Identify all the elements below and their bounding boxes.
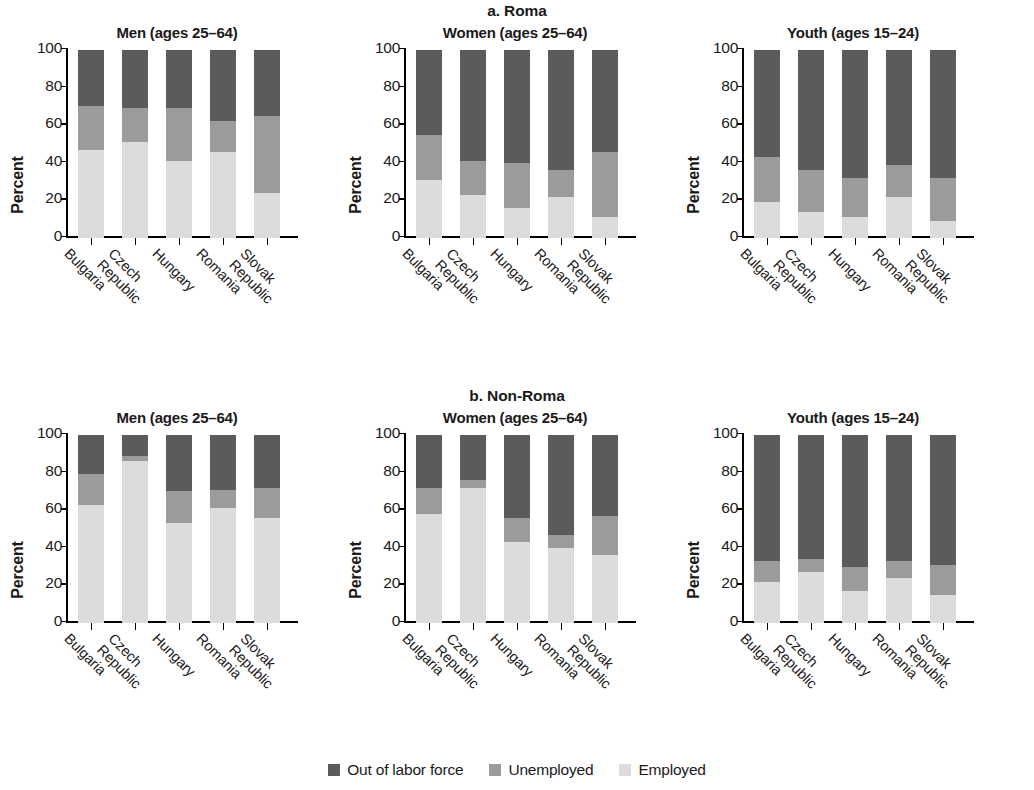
bar-hungary xyxy=(504,435,530,623)
bar-romania xyxy=(210,50,236,238)
segment-employed xyxy=(78,505,104,623)
bar-czech-republic xyxy=(460,435,486,623)
panel-row-roma: Men (ages 25–64)Percent020406080100Bulga… xyxy=(0,22,1034,367)
segment-out-of-labor-force xyxy=(592,50,618,152)
segment-employed xyxy=(886,197,912,238)
segment-out-of-labor-force xyxy=(798,50,824,170)
y-tick-mark xyxy=(737,48,742,49)
bar-czech-republic xyxy=(122,50,148,238)
x-tick-label: Hungary xyxy=(487,246,536,295)
y-tick-mark xyxy=(61,583,66,584)
segment-employed xyxy=(548,197,574,238)
section-roma: a. Roma Men (ages 25–64)Percent020406080… xyxy=(0,0,1034,375)
y-tick-mark xyxy=(737,471,742,472)
y-axis-ticks: 020406080100 xyxy=(692,433,738,623)
x-tick-mark xyxy=(561,238,562,245)
y-tick-mark xyxy=(61,123,66,124)
y-tick-mark xyxy=(61,198,66,199)
bar-hungary xyxy=(504,50,530,238)
segment-employed xyxy=(754,202,780,238)
x-tick-mark xyxy=(561,623,562,630)
x-tick-mark xyxy=(91,238,92,245)
bar-hungary xyxy=(842,50,868,238)
y-tick-mark xyxy=(399,583,404,584)
segment-employed xyxy=(842,217,868,238)
y-axis-ticks: 020406080100 xyxy=(354,433,400,623)
plot-area: Percent020406080100BulgariaCzechRepublic… xyxy=(676,48,1016,348)
x-tick-mark xyxy=(135,238,136,245)
y-axis-line xyxy=(742,48,744,238)
legend-swatch xyxy=(489,764,501,776)
x-tick-label: CzechRepublic xyxy=(770,631,831,692)
x-tick-mark xyxy=(943,238,944,245)
y-axis-ticks: 020406080100 xyxy=(16,433,62,623)
x-tick-mark xyxy=(899,623,900,630)
segment-out-of-labor-force xyxy=(930,50,956,178)
y-tick-label: 40 xyxy=(692,537,738,555)
segment-employed xyxy=(504,542,530,623)
x-tick-label: Hungary xyxy=(825,631,874,680)
y-tick-mark xyxy=(399,86,404,87)
segment-unemployed xyxy=(122,108,148,142)
panel-men: Men (ages 25–64)Percent020406080100Bulga… xyxy=(0,22,340,367)
segment-out-of-labor-force xyxy=(798,435,824,559)
y-tick-label: 0 xyxy=(692,612,738,630)
axis xyxy=(742,48,972,238)
bar-bulgaria xyxy=(416,435,442,623)
bar-bulgaria xyxy=(754,435,780,623)
legend-label: Employed xyxy=(638,761,705,779)
y-tick-label: 20 xyxy=(16,189,62,207)
x-tick-label: Hungary xyxy=(825,246,874,295)
x-axis-labels: BulgariaCzechRepublicHungaryRomaniaSlova… xyxy=(66,631,306,731)
y-tick-label: 80 xyxy=(16,462,62,480)
segment-out-of-labor-force xyxy=(548,435,574,535)
y-tick-mark xyxy=(737,508,742,509)
x-tick-mark xyxy=(811,623,812,630)
segment-unemployed xyxy=(754,157,780,202)
segment-employed xyxy=(210,152,236,238)
segment-employed xyxy=(886,578,912,623)
y-tick-mark xyxy=(399,161,404,162)
x-tick-label: SlovakRepublic xyxy=(564,631,625,692)
bar-czech-republic xyxy=(460,50,486,238)
segment-out-of-labor-force xyxy=(842,435,868,567)
section-title-nonroma: b. Non-Roma xyxy=(0,385,1034,407)
x-tick-mark xyxy=(429,623,430,630)
x-tick-label: Hungary xyxy=(487,631,536,680)
y-tick-mark xyxy=(61,161,66,162)
segment-out-of-labor-force xyxy=(754,435,780,561)
axis xyxy=(66,48,296,238)
legend-item: Out of labor force xyxy=(328,761,463,779)
segment-unemployed xyxy=(930,178,956,221)
y-tick-mark xyxy=(61,236,66,237)
plot-area: Percent020406080100BulgariaCzechRepublic… xyxy=(338,433,678,733)
segment-employed xyxy=(460,195,486,238)
bar-hungary xyxy=(842,435,868,623)
y-axis-ticks: 020406080100 xyxy=(16,48,62,238)
y-tick-label: 0 xyxy=(16,227,62,245)
segment-out-of-labor-force xyxy=(548,50,574,170)
axis xyxy=(742,433,972,623)
y-tick-label: 60 xyxy=(354,114,400,132)
panel-women: Women (ages 25–64)Percent020406080100Bul… xyxy=(338,407,678,752)
x-tick-label: CzechRepublic xyxy=(432,246,493,307)
y-tick-label: 80 xyxy=(692,462,738,480)
y-axis-line xyxy=(404,433,406,623)
panel-women: Women (ages 25–64)Percent020406080100Bul… xyxy=(338,22,678,367)
segment-employed xyxy=(754,582,780,623)
segment-out-of-labor-force xyxy=(504,50,530,163)
y-tick-label: 60 xyxy=(16,499,62,517)
segment-employed xyxy=(798,212,824,238)
segment-employed xyxy=(592,555,618,623)
segment-unemployed xyxy=(886,165,912,197)
segment-out-of-labor-force xyxy=(122,435,148,456)
x-tick-label: CzechRepublic xyxy=(94,246,155,307)
y-tick-mark xyxy=(61,48,66,49)
segment-out-of-labor-force xyxy=(460,435,486,480)
x-tick-label: Hungary xyxy=(149,246,198,295)
y-tick-label: 40 xyxy=(354,152,400,170)
y-tick-mark xyxy=(399,621,404,622)
bar-romania xyxy=(886,435,912,623)
y-tick-mark xyxy=(61,621,66,622)
y-tick-mark xyxy=(399,471,404,472)
